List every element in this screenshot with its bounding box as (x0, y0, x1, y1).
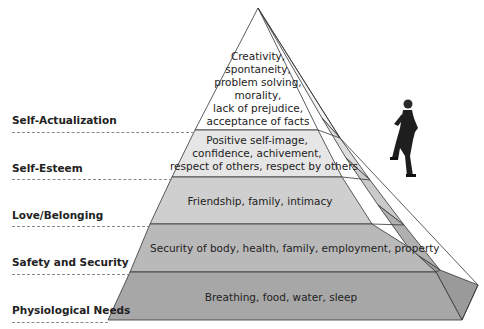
level-label-safety-security: Safety and Security (12, 256, 129, 268)
dashed-guide (12, 179, 172, 180)
level-text-safety-security: Security of body, health, family, employ… (150, 242, 412, 255)
level-text-love-belonging: Friendship, family, intimacy (160, 195, 360, 208)
dashed-guide (12, 322, 108, 323)
maslow-pyramid-diagram: Self-Actualization Self-Esteem Love/Belo… (0, 0, 484, 329)
level-label-self-actualization: Self-Actualization (12, 114, 117, 126)
climbing-businessman-icon (390, 100, 418, 178)
level-label-love-belonging: Love/Belonging (12, 209, 103, 221)
dashed-guide (12, 132, 194, 133)
level-text-self-esteem: Positive self-image, confidence, achivem… (170, 134, 344, 173)
level-text-self-actualization: Creativity, spontaneity, problem solving… (186, 50, 330, 128)
level-text-physiological: Breathing, food, water, sleep (150, 291, 412, 304)
level-label-physiological: Physiological Needs (12, 304, 130, 316)
dashed-guide (12, 274, 130, 275)
level-label-self-esteem: Self-Esteem (12, 162, 83, 174)
dashed-guide (12, 226, 150, 227)
